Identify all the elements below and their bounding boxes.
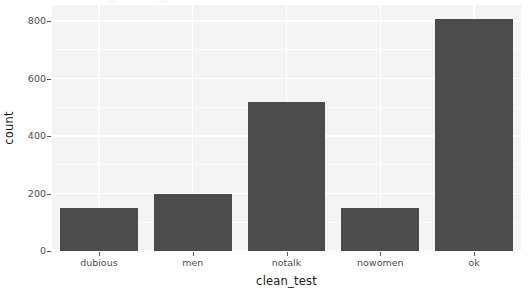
bar-chart: count 0200400600800 dubiousmennotalknowo… [0,0,531,302]
x-tick-mark-notalk [287,252,288,256]
x-tick-mark-men [193,252,194,256]
x-axis-title: clean_test [52,274,521,288]
x-tick-label-notalk: notalk [272,258,302,268]
y-tick-mark-200 [47,194,51,195]
bar-nowomen [341,208,419,251]
x-axis-title-label: clean_test [256,274,317,288]
bar-men [154,194,232,252]
y-tick-label-800: 800 [18,16,46,26]
y-tick-label-400: 400 [18,131,46,141]
x-tick-label-dubious: dubious [80,258,118,268]
y-tick-mark-400 [47,136,51,137]
y-tick-label-0: 0 [18,246,46,256]
y-tick-label-200: 200 [18,189,46,199]
y-tick-mark-800 [47,21,51,22]
x-tick-label-nowomen: nowomen [357,258,404,268]
bar-dubious [60,208,138,251]
y-axis-tick-labels: 0200400600800 [16,0,46,302]
y-tick-label-600: 600 [18,74,46,84]
x-tick-mark-dubious [99,252,100,256]
x-tick-mark-nowomen [380,252,381,256]
y-axis-title-label: count [2,111,16,144]
x-tick-label-men: men [182,258,203,268]
plot-panel [52,5,521,251]
y-tick-mark-0 [47,251,51,252]
x-tick-mark-ok [474,252,475,256]
x-tick-label-ok: ok [468,258,479,268]
y-tick-mark-600 [47,79,51,80]
bar-notalk [248,102,326,251]
bar-ok [435,19,513,251]
